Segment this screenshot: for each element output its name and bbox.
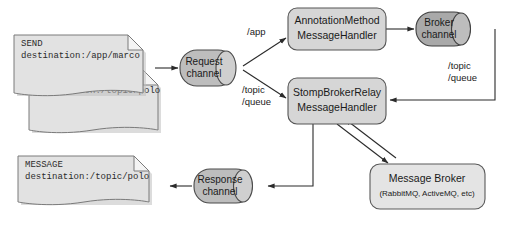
node-label-line-1: AnnotationMethod xyxy=(294,14,379,26)
node-label-line-2: MessageHandler xyxy=(297,101,377,113)
node-message-broker: Message Broker (RabbitMQ, ActiveMQ, etc) xyxy=(370,164,485,209)
node-label-title: Message Broker xyxy=(389,172,466,184)
channel-label-line-1: Broker xyxy=(424,17,454,28)
document-fold-corner xyxy=(128,35,143,50)
document-line-1: SEND xyxy=(21,39,43,49)
node-label-line-2: MessageHandler xyxy=(297,29,377,41)
edge-message-broker-to-stomp-relay xyxy=(345,119,396,158)
edge-stomp-relay-to-message-broker xyxy=(337,124,388,163)
document-line-1: MESSAGE xyxy=(25,160,63,170)
node-label-line-1: StompBrokerRelay xyxy=(293,86,382,98)
channel-request: Request channel xyxy=(180,50,236,86)
label-queue-right: /queue xyxy=(448,72,477,83)
edge-request-to-annotation-handler xyxy=(243,38,286,66)
document-fold-corner xyxy=(134,156,149,171)
label-app: /app xyxy=(247,26,266,37)
edge-stomp-relay-to-response-channel xyxy=(268,124,313,186)
channel-label-line-2: channel xyxy=(186,68,221,79)
diagram-canvas: /app /topic /queue /topic /queue SEND de… xyxy=(0,0,507,228)
label-topic-left: /topic xyxy=(242,84,265,95)
node-annotation-method-message-handler: AnnotationMethod MessageHandler xyxy=(288,8,386,50)
channel-broker: Broker channel xyxy=(416,12,471,46)
channel-label-line-2: channel xyxy=(421,29,456,40)
node-box xyxy=(370,164,485,209)
channel-label-line-2: channel xyxy=(202,186,237,197)
document-line-2: destination:/app/marco xyxy=(21,51,140,61)
label-topic-right: /topic xyxy=(448,60,471,71)
document-send-app-marco: SEND destination:/app/marco xyxy=(14,35,146,96)
document-line-2: destination:/topic/polo xyxy=(25,172,149,182)
label-queue-left: /queue xyxy=(242,96,271,107)
node-stomp-broker-relay-message-handler: StompBrokerRelay MessageHandler xyxy=(288,78,386,124)
node-label-subtitle: (RabbitMQ, ActiveMQ, etc) xyxy=(379,189,474,198)
channel-response: Response channel xyxy=(194,169,253,203)
stomp-message-flow-diagram: /app /topic /queue /topic /queue SEND de… xyxy=(0,0,507,228)
channel-label-line-1: Request xyxy=(185,56,222,67)
document-message-topic-polo: MESSAGE destination:/topic/polo xyxy=(18,156,152,205)
channel-label-line-1: Response xyxy=(197,174,242,185)
